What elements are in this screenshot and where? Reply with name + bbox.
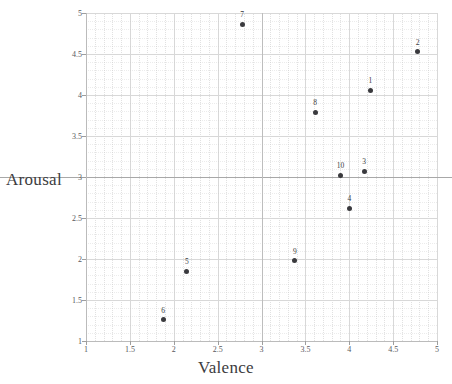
y-axis-tick-label: 5 [78,9,82,18]
x-axis-tick-label: 5 [435,345,439,354]
y-axis-title: Arousal [6,170,62,190]
data-point [347,206,352,211]
data-point [313,110,318,115]
data-point-label: 2 [416,38,420,47]
y-axis-tick-label: 3 [78,173,82,182]
y-axis-tick [82,259,86,260]
x-axis-tick-label: 2 [172,345,176,354]
y-axis-tick [82,218,86,219]
x-axis-tick-label: 2.5 [213,345,223,354]
y-axis-tick [82,177,86,178]
y-axis-spine [86,13,87,341]
x-axis-title: Valence [0,358,452,378]
data-point [368,88,373,93]
data-point-label: 6 [161,306,165,315]
reference-line-vertical [262,13,263,341]
y-axis-tick [82,136,86,137]
y-axis-tick-label: 2 [78,255,82,264]
scatter-plot-figure: Arousal Valence 11.522.533.544.5511.522.… [0,0,452,384]
y-axis-tick [82,341,86,342]
data-point-label: 7 [240,10,244,19]
data-point [362,169,367,174]
y-axis-tick-label: 1.5 [72,296,82,305]
y-axis-tick [82,300,86,301]
data-point-label: 5 [185,257,189,266]
y-axis-tick-label: 3.5 [72,132,82,141]
y-axis-tick [82,13,86,14]
reference-line-horizontal [0,177,452,178]
y-axis-tick [82,95,86,96]
x-axis-tick-label: 1.5 [125,345,135,354]
y-axis-tick-label: 2.5 [72,214,82,223]
data-point-label: 8 [313,98,317,107]
x-axis-tick-label: 4 [347,345,351,354]
x-axis-tick-label: 1 [84,345,88,354]
data-point-label: 1 [368,76,372,85]
plot-area [86,13,437,341]
y-axis-tick-label: 1 [78,337,82,346]
y-axis-tick-label: 4.5 [72,50,82,59]
x-axis-tick-label: 3 [260,345,264,354]
data-point-label: 9 [293,247,297,256]
data-point [338,173,343,178]
data-point-label: 10 [337,161,345,170]
x-axis-tick-label: 3.5 [300,345,310,354]
x-axis-tick-label: 4.5 [388,345,398,354]
data-point-label: 3 [362,157,366,166]
y-axis-tick-label: 4 [78,91,82,100]
data-point [161,317,166,322]
y-axis-tick [82,54,86,55]
data-point-label: 4 [347,194,351,203]
data-point [240,22,245,27]
